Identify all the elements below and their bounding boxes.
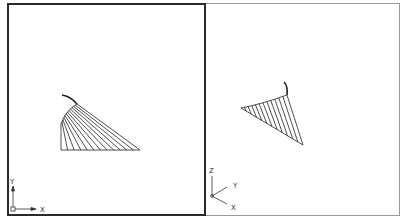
ruling-line xyxy=(62,122,68,150)
ucs-origin-box xyxy=(11,207,15,211)
ucs-icon-plan: Y X xyxy=(9,178,45,214)
ruling-line xyxy=(267,102,277,130)
ucs-z-label: Z xyxy=(209,167,214,175)
top-curl-edge xyxy=(284,82,287,95)
hypotenuse-edge xyxy=(77,104,140,150)
y-axis-line xyxy=(212,187,227,196)
ucs-x-label: X xyxy=(231,204,236,212)
ruling-line xyxy=(263,103,272,127)
ruling-line xyxy=(72,108,120,151)
ruling-line xyxy=(75,105,133,150)
right-edge xyxy=(287,95,303,145)
x-axis-line xyxy=(212,196,227,204)
top-curl-edge xyxy=(62,95,77,104)
ucs-y-label: Y xyxy=(9,178,15,186)
ruling-line xyxy=(65,116,87,150)
ucs-y-label: Y xyxy=(232,182,238,190)
ucs-x-label: X xyxy=(40,206,45,214)
ruling-line xyxy=(283,97,298,142)
y-axis-arrow xyxy=(12,186,15,191)
ruling-line xyxy=(259,104,267,124)
drawing-canvas: Y X Z Y X xyxy=(0,0,403,223)
ruled-surface-plan-view[interactable] xyxy=(61,95,140,150)
ruled-surface-iso-view[interactable] xyxy=(241,82,303,145)
x-axis-arrow xyxy=(31,208,36,211)
ucs-icon-iso: Z Y X xyxy=(209,167,238,212)
